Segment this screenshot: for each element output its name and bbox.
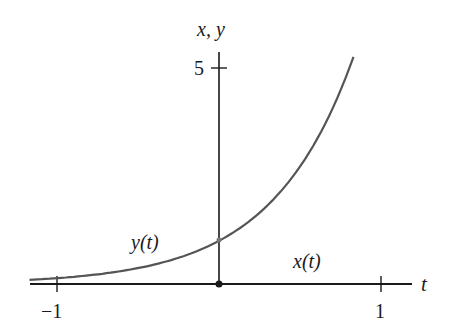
origin-dot [216, 281, 223, 288]
y-axis-label: x, y [196, 18, 225, 41]
y-curve-label: y(t) [129, 231, 159, 254]
y-tick-label-5: 5 [194, 57, 204, 79]
x-tick-label-1: 1 [375, 300, 385, 322]
x-curve-label: x(t) [292, 250, 321, 273]
chart-svg: x, y 5 −1 1 t y(t) x(t) [0, 0, 451, 336]
t-axis-label: t [421, 272, 428, 296]
chart-figure: x, y 5 −1 1 t y(t) x(t) [0, 0, 451, 336]
intercept-point [217, 238, 222, 243]
y-curve [30, 57, 354, 280]
x-tick-label-minus1: −1 [41, 300, 62, 322]
